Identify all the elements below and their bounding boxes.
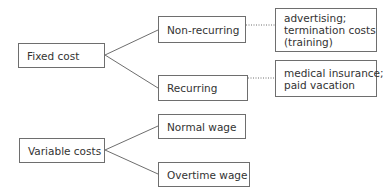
node-normal-wage: Normal wage <box>158 114 246 139</box>
node-recurring: Recurring <box>158 75 248 101</box>
note-recurring-examples: medical insurance; paid vacation <box>275 60 377 97</box>
note-non-recurring-examples: advertising; termination costs (training… <box>275 8 377 52</box>
node-label: Overtime wage <box>167 169 247 181</box>
node-variable-costs: Variable costs <box>19 138 105 163</box>
link-variable-to-overtime <box>105 150 158 174</box>
link-fixed-to-recurring <box>105 55 158 88</box>
note-line: medical insurance; <box>284 67 384 79</box>
node-label: Variable costs <box>28 145 101 157</box>
note-line: paid vacation <box>284 79 355 91</box>
node-label: Normal wage <box>167 121 236 133</box>
node-overtime-wage: Overtime wage <box>158 162 250 187</box>
note-line: (training) <box>284 36 333 48</box>
note-line: termination costs <box>284 24 376 36</box>
link-variable-to-normal <box>105 126 158 150</box>
node-label: Fixed cost <box>27 50 79 62</box>
node-non-recurring: Non-recurring <box>158 16 246 43</box>
node-label: Non-recurring <box>167 24 239 36</box>
node-label: Recurring <box>167 82 217 94</box>
link-fixed-to-nonrecurring <box>105 30 158 55</box>
node-fixed-cost: Fixed cost <box>18 43 105 68</box>
note-line: advertising; <box>284 12 346 24</box>
